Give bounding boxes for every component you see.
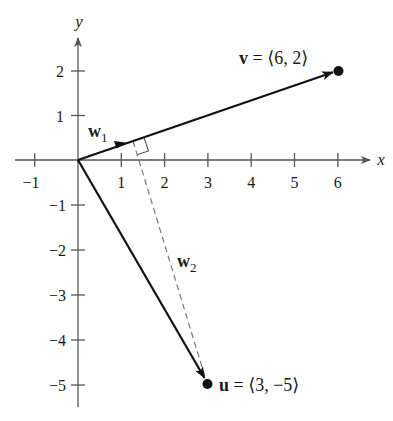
y-tick-label: −1 xyxy=(49,197,66,214)
v-label: v = ⟨6, 2⟩ xyxy=(239,48,308,68)
x-tick-label: 2 xyxy=(161,174,169,191)
vector-projection-figure: −1 1 2 3 4 5 6 x 2 1 −1 −2 −3 −4 −5 y xyxy=(0,0,393,421)
y-tick-label: −2 xyxy=(49,242,66,259)
x-tick-label: 4 xyxy=(247,174,255,191)
x-tick-label: 6 xyxy=(334,174,342,191)
x-axis-label: x xyxy=(376,150,385,169)
x-tick-label: 3 xyxy=(204,174,212,191)
w2-label: w2 xyxy=(177,251,197,275)
u-label: u = ⟨3, −5⟩ xyxy=(219,375,299,395)
x-axis: −1 1 2 3 4 5 6 x xyxy=(15,150,385,191)
y-tick-label: −5 xyxy=(49,377,66,394)
y-tick-label: 1 xyxy=(56,108,64,125)
y-tick-label: −3 xyxy=(49,287,66,304)
diagram-canvas: −1 1 2 3 4 5 6 x 2 1 −1 −2 −3 −4 −5 y xyxy=(0,0,393,421)
y-axis: 2 1 −1 −2 −3 −4 −5 y xyxy=(49,12,85,407)
x-tick-label: 1 xyxy=(117,174,125,191)
v-endpoint-dot xyxy=(334,66,344,76)
w1-label: w1 xyxy=(88,121,108,145)
x-tick-label: 5 xyxy=(291,174,299,191)
y-tick-label: −4 xyxy=(49,332,66,349)
y-tick-label: 2 xyxy=(56,63,64,80)
x-tick-label: −1 xyxy=(22,174,39,191)
y-axis-label: y xyxy=(73,12,83,31)
u-endpoint-dot xyxy=(203,379,213,389)
